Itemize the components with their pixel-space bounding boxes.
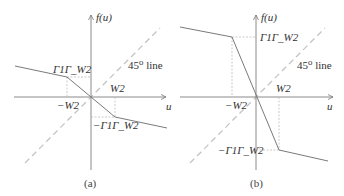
panel-a-45-line-label: 45⁰ line	[128, 60, 163, 71]
tick-text: W2	[276, 82, 291, 94]
panel-b-x-axis-label: u	[327, 101, 333, 112]
panel-b-y-axis-label: f(u)	[261, 12, 277, 23]
tick-text: −W2	[225, 99, 247, 111]
panel-a-neg-x-tick: −W2	[57, 100, 79, 111]
tick-text: −Γ1Γ_W2	[93, 119, 139, 131]
panel-a-45-degree-line	[25, 28, 160, 163]
panel-b-neg-y-tick: −Γ1Γ_W2	[218, 145, 264, 156]
x-axis-label-text: u	[327, 100, 333, 112]
y-axis-label-text: f(u)	[261, 11, 277, 23]
panel-b-caption: (b)	[250, 178, 263, 189]
tick-text: W2	[110, 82, 125, 94]
panel-a-y-axis-label: f(u)	[96, 12, 112, 23]
panel-a-pos-y-tick: Γ1Γ_W2	[53, 64, 91, 75]
diagram-canvas	[0, 0, 344, 196]
panel-a-x-axis-label: u	[166, 101, 172, 112]
panel-b-pos-y-tick: Γ1Γ_W2	[260, 32, 298, 43]
y-axis-label-text: f(u)	[96, 11, 112, 23]
x-axis-label-text: u	[166, 100, 172, 112]
panel-a-plot	[14, 15, 167, 170]
panel-a-pos-x-tick: W2	[110, 83, 125, 94]
tick-text: Γ1Γ_W2	[260, 31, 298, 43]
tick-text: Γ1Γ_W2	[53, 63, 91, 75]
tick-text: −W2	[57, 99, 79, 111]
tick-text: −Γ1Γ_W2	[218, 144, 264, 156]
panel-a-caption: (a)	[84, 178, 96, 189]
panel-b-45-degree-line	[190, 28, 325, 163]
panel-b-pos-x-tick: W2	[276, 83, 291, 94]
panel-b-neg-x-tick: −W2	[225, 100, 247, 111]
panel-a-neg-y-tick: −Γ1Γ_W2	[93, 120, 139, 131]
panel-b-45-line-label: 45⁰ line	[297, 60, 332, 71]
